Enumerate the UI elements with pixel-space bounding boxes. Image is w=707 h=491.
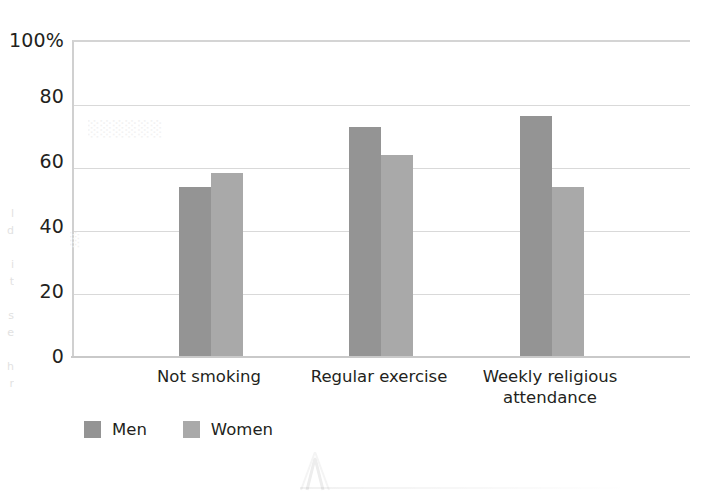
y-axis-tick-label-0: 0	[2, 347, 64, 366]
legend-item-men: Men	[84, 421, 147, 438]
y-axis-tick-label-20: 20	[2, 282, 64, 301]
legend-swatch-women-icon	[183, 421, 200, 438]
legend-item-women: Women	[183, 421, 273, 438]
legend-label-men: Men	[112, 421, 147, 438]
y-axis-tick-label-80: 80	[2, 87, 64, 106]
bar-women-not-smoking	[211, 173, 243, 357]
bar-men-weekly-religious-attendance	[520, 116, 552, 357]
y-axis-tick-label-60: 60	[2, 152, 64, 171]
bar-chart: 100% 80 60 40 20 0 Not smoking Regular e…	[0, 0, 707, 491]
category-label-line-1: Regular exercise	[299, 366, 459, 387]
category-label-line-1: Weekly religious	[470, 366, 630, 387]
legend-swatch-men-icon	[84, 421, 101, 438]
chart-legend: Men Women	[84, 421, 309, 438]
y-axis-tick-label-100: 100%	[2, 31, 64, 50]
x-axis-category-label-regular-exercise: Regular exercise	[299, 366, 459, 387]
bar-men-regular-exercise	[349, 127, 381, 357]
category-label-line-1: Not smoking	[129, 366, 289, 387]
legend-label-women: Women	[211, 421, 273, 438]
y-axis-tick-label-40: 40	[2, 217, 64, 236]
gridline-80	[74, 105, 690, 106]
x-axis-category-label-weekly-religious-attendance: Weekly religious attendance	[470, 366, 630, 408]
bar-women-weekly-religious-attendance	[552, 187, 584, 357]
plot-area	[72, 40, 690, 357]
x-axis-baseline	[71, 356, 690, 358]
category-label-line-2: attendance	[470, 387, 630, 408]
x-axis-category-label-not-smoking: Not smoking	[129, 366, 289, 387]
bar-women-regular-exercise	[381, 155, 413, 357]
bar-men-not-smoking	[179, 187, 211, 357]
